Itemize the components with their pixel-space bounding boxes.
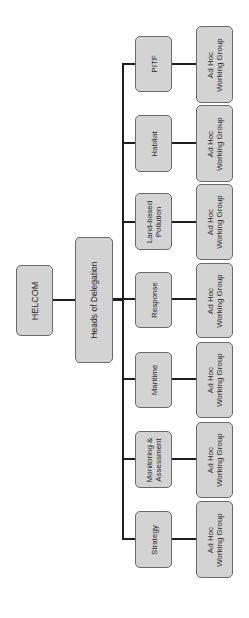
adhoc-box-land-based-pollution: Ad Hoc Working Group — [196, 184, 233, 260]
connector-trunk-monitoring — [122, 458, 135, 460]
connector-trunk-habitat — [122, 142, 135, 144]
connector-trunk-strategy — [122, 538, 135, 540]
trunk-line — [122, 63, 124, 540]
group-label: Strategy — [149, 525, 158, 555]
connector-trunk-maritime — [122, 378, 135, 380]
adhoc-box-strategy: Ad Hoc Working Group — [196, 501, 233, 578]
group-label: Response — [149, 282, 158, 318]
connector-strategy-adhoc — [172, 538, 196, 540]
adhoc-label: Ad Hoc Working Group — [206, 195, 224, 249]
adhoc-label: Ad Hoc Working Group — [206, 513, 224, 567]
adhoc-box-response: Ad Hoc Working Group — [196, 263, 233, 338]
group-box-strategy: Strategy — [135, 511, 172, 568]
group-label: PITF — [149, 55, 158, 72]
adhoc-box-monitoring-assessment: Ad Hoc Working Group — [196, 422, 233, 498]
adhoc-label: Ad Hoc Working Group — [206, 433, 224, 487]
group-box-habitat: Habitat — [135, 115, 172, 172]
adhoc-box-habitat: Ad Hoc Working Group — [196, 105, 233, 182]
group-box-pitf: PITF — [135, 36, 172, 92]
adhoc-box-pitf: Ad Hoc Working Group — [196, 26, 233, 103]
group-box-response: Response — [135, 272, 172, 328]
adhoc-label: Ad Hoc Working Group — [206, 274, 224, 328]
group-box-land-based-pollution: Land-based Pollution — [135, 193, 172, 250]
connector-helcom-hod — [53, 299, 75, 301]
helcom-label: HELCOM — [30, 281, 39, 320]
connector-landbased-adhoc — [172, 221, 196, 223]
connector-trunk-response — [122, 298, 135, 300]
group-box-maritime: Maritime — [135, 352, 172, 408]
connector-pitf-adhoc — [172, 63, 196, 65]
group-label: Monitoring & Assessment — [145, 437, 163, 482]
group-label: Maritime — [149, 365, 158, 396]
group-box-monitoring-assessment: Monitoring & Assessment — [135, 431, 172, 488]
adhoc-label: Ad Hoc Working Group — [206, 353, 224, 407]
connector-trunk-landbased — [122, 221, 135, 223]
adhoc-label: Ad Hoc Working Group — [206, 117, 224, 171]
group-label: Habitat — [149, 131, 158, 156]
connector-trunk-pitf — [122, 63, 135, 65]
connector-habitat-adhoc — [172, 142, 196, 144]
adhoc-label: Ad Hoc Working Group — [206, 38, 224, 92]
heads-of-delegation-box: Heads of Delegation — [75, 237, 113, 363]
heads-of-delegation-label: Heads of Delegation — [90, 261, 99, 338]
connector-response-adhoc — [172, 298, 196, 300]
adhoc-box-maritime: Ad Hoc Working Group — [196, 342, 233, 418]
helcom-box: HELCOM — [16, 265, 53, 336]
group-label: Land-based Pollution — [145, 200, 163, 242]
connector-maritime-adhoc — [172, 378, 196, 380]
connector-monitoring-adhoc — [172, 458, 196, 460]
